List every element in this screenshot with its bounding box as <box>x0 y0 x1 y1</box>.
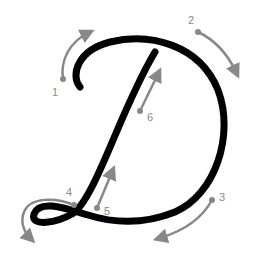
step-label-3: 3 <box>219 191 225 203</box>
step-label-2: 2 <box>188 14 194 26</box>
letter-d-diagram: 1 2 3 4 5 6 <box>0 0 254 260</box>
guide-step-2: 2 <box>188 14 236 72</box>
step-label-5: 5 <box>104 205 110 217</box>
step-label-1: 1 <box>52 86 58 98</box>
step-label-6: 6 <box>147 111 153 123</box>
step-label-4: 4 <box>66 186 72 198</box>
